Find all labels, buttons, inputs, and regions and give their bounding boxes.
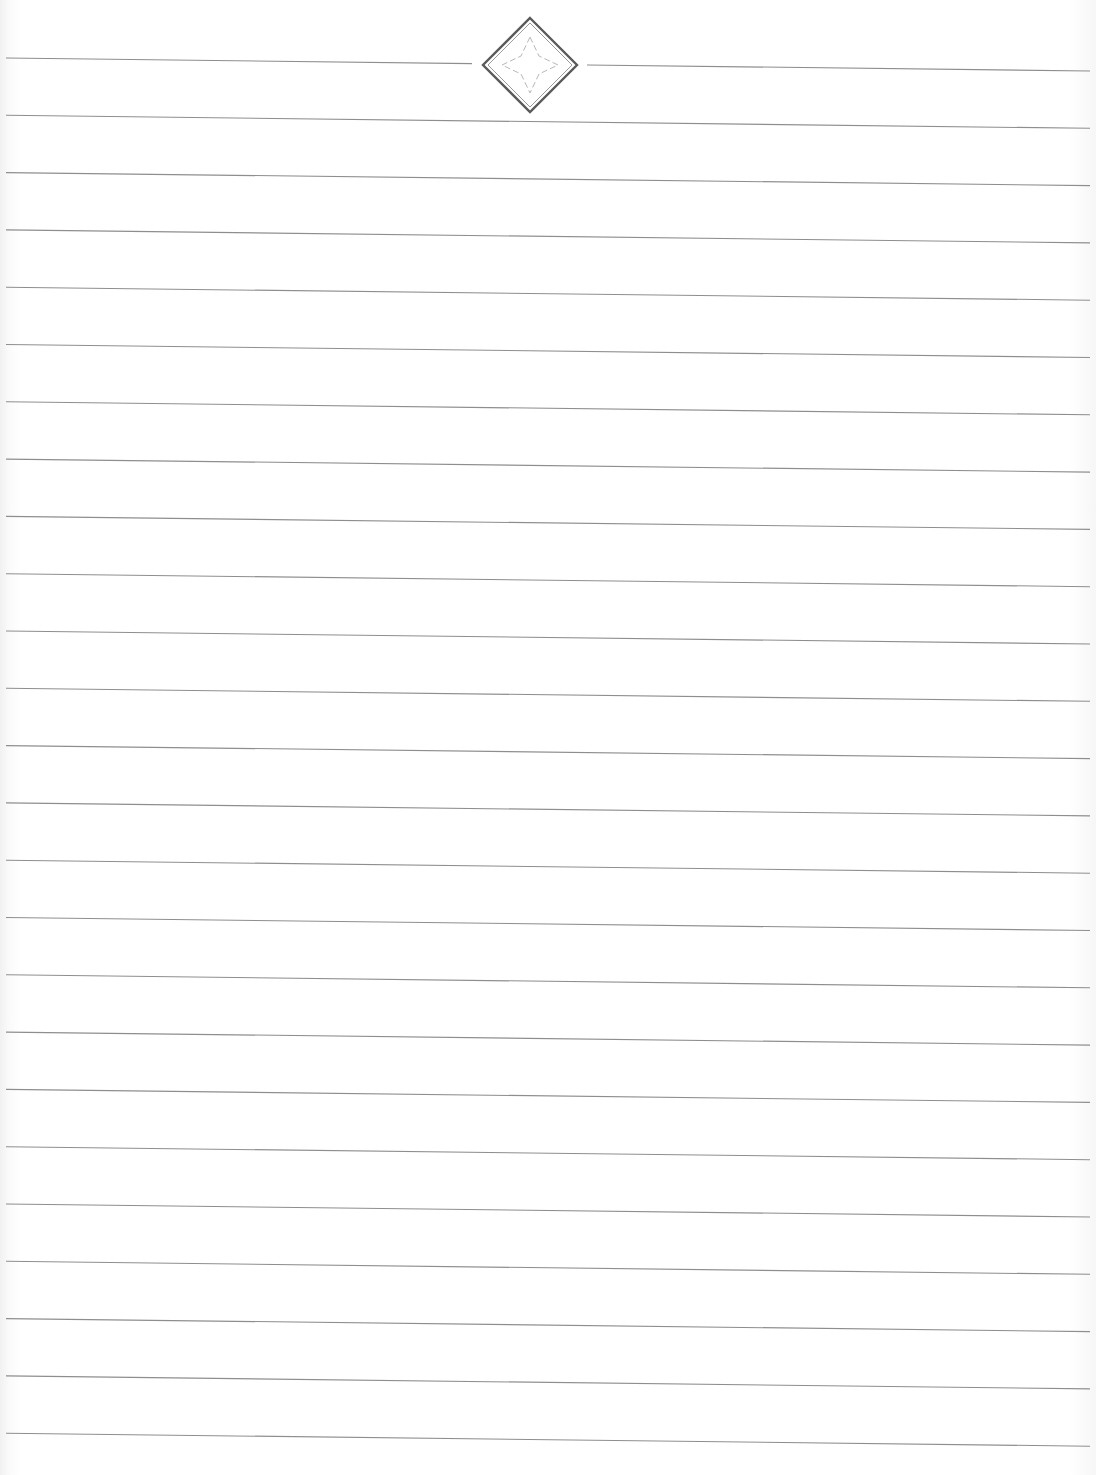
ruled-line <box>6 1376 1090 1389</box>
ruled-line <box>6 1089 1090 1102</box>
ruled-page <box>0 0 1096 1475</box>
diamond-ornament-icon <box>483 18 577 112</box>
ruled-line <box>6 345 1090 358</box>
ruled-line <box>6 1147 1090 1160</box>
ruled-line <box>6 230 1090 243</box>
ruled-line <box>6 1433 1090 1446</box>
ruled-line <box>6 1204 1090 1217</box>
ruled-line <box>587 65 1090 71</box>
ruled-line <box>6 803 1090 816</box>
ruled-line <box>6 459 1090 472</box>
ruled-line <box>6 860 1090 873</box>
ruled-line <box>6 574 1090 587</box>
ruled-line <box>6 688 1090 701</box>
ruled-line <box>6 975 1090 988</box>
ruled-line <box>6 918 1090 931</box>
ruled-line <box>6 58 472 64</box>
ruled-line <box>6 173 1090 186</box>
ruled-line <box>6 631 1090 644</box>
ruled-line <box>6 287 1090 300</box>
ruled-line <box>6 402 1090 415</box>
ruled-line <box>6 1032 1090 1045</box>
ruled-lines <box>0 0 1096 1475</box>
ruled-line <box>6 1261 1090 1274</box>
ruled-line <box>6 746 1090 759</box>
ruled-line <box>6 516 1090 529</box>
ruled-line <box>6 115 1090 128</box>
ruled-line <box>6 1319 1090 1332</box>
